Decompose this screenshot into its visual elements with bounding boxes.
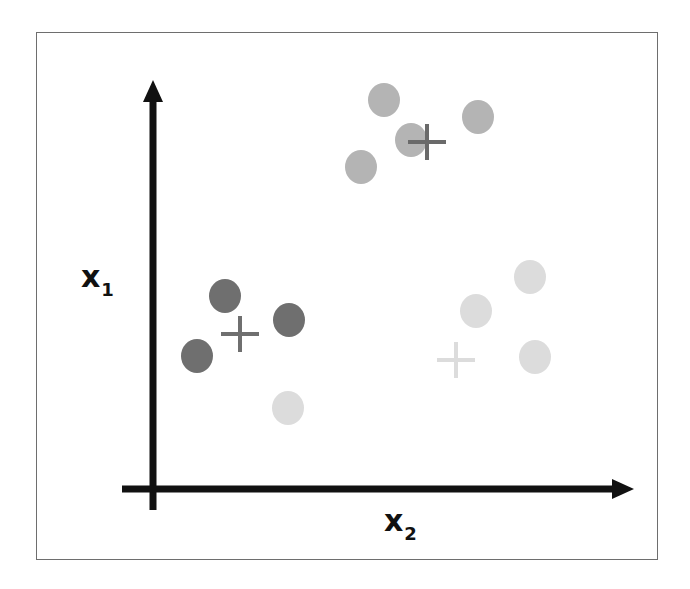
data-points [181, 83, 551, 425]
cluster-upper-point [462, 100, 494, 134]
y-axis [143, 80, 163, 510]
x-axis-arrowhead-icon [612, 479, 634, 499]
x-axis-label: x2 [384, 506, 417, 536]
cluster-upper-point [368, 83, 400, 117]
cluster-light-point [460, 294, 492, 328]
cluster-light-point [519, 340, 551, 374]
cluster-dark-point [181, 339, 213, 373]
cluster-dark-centroid-cross-icon [221, 316, 259, 352]
y-axis-arrowhead-icon [143, 80, 163, 102]
x-axis [122, 479, 634, 499]
cluster-dark-point [209, 279, 241, 313]
y-axis-label: x1 [81, 262, 114, 292]
y-axis-label-subscript: 1 [101, 279, 114, 300]
y-axis-label-main: x [81, 259, 100, 294]
x-axis-label-subscript: 2 [404, 523, 417, 544]
cluster-light-centroid-cross-icon [437, 342, 475, 378]
cluster-upper-point [345, 150, 377, 184]
cluster-light-point [514, 260, 546, 294]
cluster-dark-point [273, 303, 305, 337]
x-axis-label-main: x [384, 503, 403, 538]
cluster-light-point [272, 391, 304, 425]
